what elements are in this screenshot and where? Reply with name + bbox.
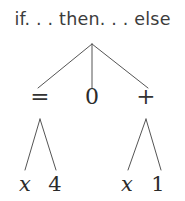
node-zero-literal: 0 <box>72 86 112 108</box>
edge-root-to-eq <box>38 44 92 88</box>
node-plus-operator: + <box>126 85 166 108</box>
edge-eq-to-x <box>25 119 40 170</box>
syntax-tree-figure: if. . . then. . . else = 0 + x 4 x 1 <box>0 0 185 201</box>
leaf-literal-four: 4 <box>37 174 73 195</box>
edge-eq-to-four <box>40 119 56 170</box>
edge-plus-to-one <box>146 119 161 170</box>
edge-root-to-plus <box>92 44 148 88</box>
edge-plus-to-x <box>128 119 146 170</box>
node-equals-operator: = <box>20 85 60 108</box>
leaf-literal-one: 1 <box>140 174 176 195</box>
